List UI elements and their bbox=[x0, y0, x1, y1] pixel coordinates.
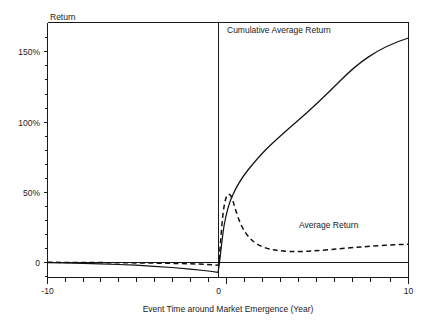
chart-screenshot: Return 150% 100% 50% 0 -10 0 10 Event Ti… bbox=[0, 0, 429, 324]
y-axis-caption: Return bbox=[50, 12, 76, 22]
y-tick-label-0: 0 bbox=[35, 258, 40, 268]
x-tick-label-10: 10 bbox=[404, 286, 414, 296]
chart-background bbox=[0, 0, 429, 324]
y-tick-label-50: 50% bbox=[23, 188, 40, 198]
x-tick-label-minus10: -10 bbox=[41, 286, 54, 296]
y-tick-label-100: 100% bbox=[18, 118, 40, 128]
return-chart: Return 150% 100% 50% 0 -10 0 10 Event Ti… bbox=[0, 0, 429, 324]
x-axis-title: Event Time around Market Emergence (Year… bbox=[143, 304, 314, 314]
cumulative-average-return-label: Cumulative Average Return bbox=[227, 25, 331, 35]
average-return-label: Average Return bbox=[299, 220, 359, 230]
y-tick-label-150: 150% bbox=[18, 47, 40, 57]
x-tick-label-0: 0 bbox=[216, 286, 221, 296]
